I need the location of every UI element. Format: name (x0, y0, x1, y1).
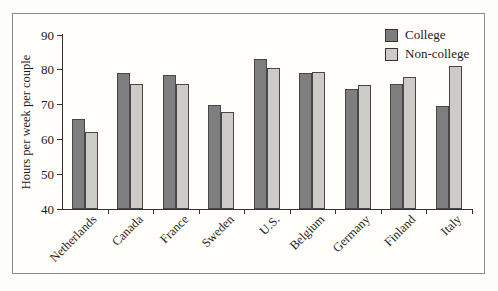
legend-item-college: College (385, 27, 469, 43)
bar-non-college-u-s (267, 68, 280, 209)
x-tick (426, 209, 427, 214)
bar-college-belgium (299, 73, 312, 209)
y-tick-label: 80 (28, 63, 54, 76)
x-tick (244, 209, 245, 214)
y-tick (57, 104, 62, 105)
bar-college-u-s (254, 59, 267, 209)
y-axis-line (62, 34, 63, 210)
bar-college-finland (390, 84, 403, 209)
x-tick (290, 209, 291, 214)
bar-non-college-finland (403, 77, 416, 209)
bar-non-college-canada (130, 84, 143, 209)
bar-non-college-italy (449, 66, 462, 209)
y-tick-label: 50 (28, 168, 54, 181)
y-tick (57, 174, 62, 175)
x-tick (153, 209, 154, 214)
bar-college-canada (117, 73, 130, 209)
legend-item-non-college: Non-college (385, 46, 469, 62)
y-tick (57, 139, 62, 140)
x-tick (335, 209, 336, 214)
bar-college-sweden (208, 105, 221, 209)
legend-label-non-college: Non-college (405, 47, 469, 61)
x-tick (381, 209, 382, 214)
legend-label-college: College (405, 28, 445, 42)
bar-college-france (163, 75, 176, 209)
y-tick (57, 209, 62, 210)
y-tick-label: 60 (28, 133, 54, 146)
y-tick-label: 90 (28, 29, 54, 42)
x-axis-line (62, 209, 473, 210)
y-tick (57, 69, 62, 70)
bar-college-italy (436, 106, 449, 209)
y-tick-label: 40 (28, 203, 54, 216)
x-tick (472, 209, 473, 214)
bar-non-college-sweden (221, 112, 234, 209)
y-tick-label: 70 (28, 98, 54, 111)
non-college-swatch (385, 48, 398, 61)
bar-non-college-belgium (312, 72, 325, 209)
bar-non-college-germany (358, 85, 371, 209)
bar-college-germany (345, 89, 358, 209)
x-tick (199, 209, 200, 214)
bar-non-college-netherlands (85, 132, 98, 209)
legend: College Non-college (385, 27, 469, 65)
y-tick (57, 35, 62, 36)
x-tick (108, 209, 109, 214)
bar-college-netherlands (72, 119, 85, 209)
college-swatch (385, 29, 398, 42)
bar-non-college-france (176, 84, 189, 209)
